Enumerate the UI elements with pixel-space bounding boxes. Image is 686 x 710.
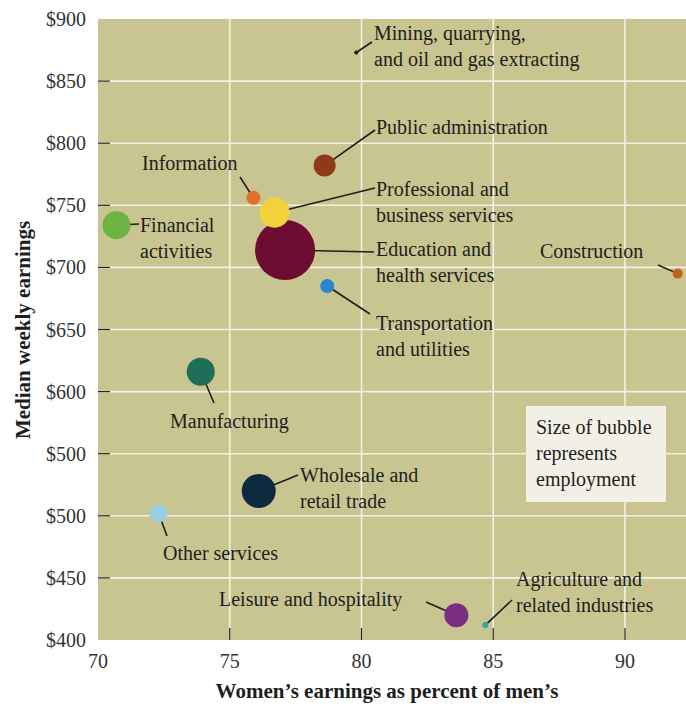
- bubble: [150, 504, 168, 522]
- bubble-chart: Median weekly earnings, by industry $900…: [0, 0, 686, 710]
- x-tick-label: 85: [483, 650, 503, 672]
- x-tick-label: 90: [615, 650, 635, 672]
- legend-note-box: Size of bubblerepresentsemployment: [526, 406, 666, 502]
- x-tick-label: 70: [88, 650, 108, 672]
- bubble: [320, 279, 334, 293]
- bubble-label: Other services: [163, 542, 278, 564]
- bubble: [444, 603, 468, 627]
- y-tick-label: $800: [46, 132, 86, 154]
- bubble: [260, 198, 290, 228]
- bubble: [187, 358, 215, 386]
- x-axis-label: Women’s earnings as percent of men’s: [216, 679, 559, 703]
- y-tick-label: $600: [46, 381, 86, 403]
- y-axis-label: Median weekly earnings: [11, 221, 35, 439]
- bubble: [242, 474, 276, 508]
- x-tick-label: 75: [220, 650, 240, 672]
- bubble: [673, 269, 683, 279]
- bubble-label: Manufacturing: [170, 410, 289, 433]
- y-tick-label: $700: [46, 256, 86, 278]
- y-tick-label: $650: [46, 319, 86, 341]
- bubble-label: Information: [142, 152, 238, 174]
- x-tick-label: 80: [352, 650, 372, 672]
- y-tick-label: $400: [46, 629, 86, 651]
- bubble: [255, 220, 315, 280]
- y-tick-label: $500: [46, 505, 86, 527]
- bubble-label: Public administration: [376, 116, 548, 138]
- bubble: [482, 622, 488, 628]
- bubble: [102, 211, 130, 239]
- bubble: [354, 51, 358, 55]
- y-tick-label: $500: [46, 443, 86, 465]
- bubble: [246, 191, 260, 205]
- y-tick-label: $450: [46, 567, 86, 589]
- y-tick-label: $750: [46, 194, 86, 216]
- bubble-label: Construction: [540, 240, 643, 262]
- y-tick-label: $850: [46, 70, 86, 92]
- bubble-label: Leisure and hospitality: [219, 588, 402, 611]
- y-tick-label: $900: [46, 8, 86, 30]
- bubble: [314, 155, 336, 177]
